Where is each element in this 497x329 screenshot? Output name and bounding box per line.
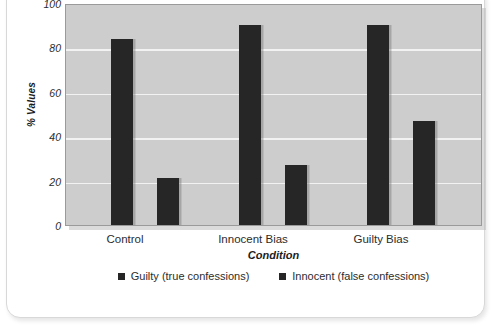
figure-card: 100 80 60 40 20 0 % Values Control Innoc… xyxy=(6,0,485,318)
bar-innocentbias-guilty xyxy=(239,25,261,225)
y-tick-0: 0 xyxy=(27,220,61,232)
x-tick-guilty-bias: Guilty Bias xyxy=(316,233,446,245)
x-tick-control: Control xyxy=(60,233,190,245)
legend-label-guilty: Guilty (true confessions) xyxy=(131,270,250,282)
y-axis-title: % Values xyxy=(26,65,37,145)
legend-swatch-icon xyxy=(279,273,286,280)
chart-legend: Guilty (true confessions) Innocent (fals… xyxy=(65,270,482,282)
y-tick-80: 80 xyxy=(27,42,61,54)
x-tick-innocent-bias: Innocent Bias xyxy=(188,233,318,245)
bar-guiltybias-guilty xyxy=(367,25,389,225)
bar-control-innocent xyxy=(157,178,179,225)
x-axis-title: Condition xyxy=(65,249,482,261)
bar-innocentbias-innocent xyxy=(285,165,307,225)
bar-control-guilty xyxy=(111,39,133,226)
legend-item-innocent: Innocent (false confessions) xyxy=(279,270,429,282)
y-tick-100: 100 xyxy=(27,0,61,10)
bar-guiltybias-innocent xyxy=(413,121,435,225)
y-tick-20: 20 xyxy=(27,176,61,188)
plot-area xyxy=(65,4,482,226)
legend-swatch-icon xyxy=(118,273,125,280)
legend-label-innocent: Innocent (false confessions) xyxy=(292,270,429,282)
legend-item-guilty: Guilty (true confessions) xyxy=(118,270,250,282)
